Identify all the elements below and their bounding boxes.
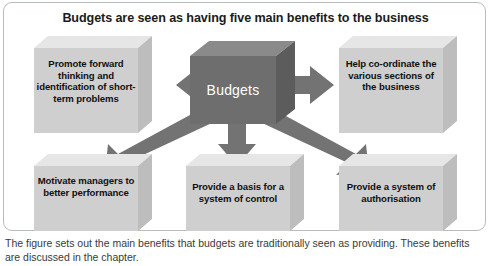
node-provide-basis-control[interactable]	[186, 154, 304, 231]
node-front-face	[339, 48, 443, 133]
node-front-face	[339, 166, 443, 231]
node-top-face	[339, 154, 457, 166]
figure-caption: The figure sets out the main benefits th…	[5, 236, 475, 264]
node-front-face	[34, 48, 138, 133]
node-side-face	[290, 154, 304, 231]
node-side-face	[443, 36, 457, 133]
node-help-co-ordinate[interactable]	[339, 36, 457, 133]
node-provide-system-authorisation[interactable]	[339, 154, 457, 231]
node-top-face	[339, 36, 457, 48]
center-node-front-face	[190, 56, 276, 124]
node-front-face	[186, 166, 290, 231]
node-front-face	[34, 166, 138, 231]
figure-panel: Budgets are seen as having five main ben…	[3, 2, 486, 231]
node-side-face	[138, 154, 152, 231]
node-top-face	[34, 36, 152, 48]
benefits-diagram	[4, 3, 487, 232]
center-node-budgets[interactable]	[190, 41, 295, 124]
node-top-face	[34, 154, 152, 166]
node-motivate-managers[interactable]	[34, 154, 152, 231]
node-side-face	[138, 36, 152, 133]
node-promote-forward-thinking[interactable]	[34, 36, 152, 133]
node-top-face	[186, 154, 304, 166]
node-side-face	[443, 154, 457, 231]
